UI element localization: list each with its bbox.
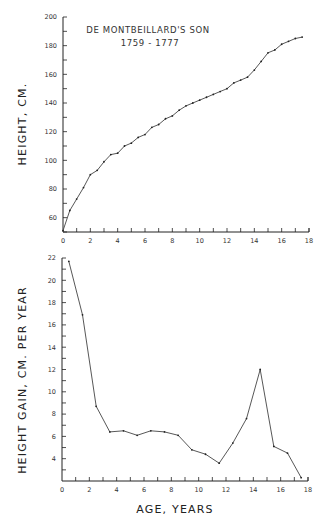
x-tick-label: 6 (142, 486, 146, 494)
data-point (253, 69, 255, 71)
x-tick-label: 2 (88, 237, 92, 245)
x-tick-label: 14 (250, 237, 258, 245)
data-point (219, 91, 221, 93)
y-tick-label: 6 (52, 433, 56, 441)
data-point (260, 61, 262, 63)
data-point (82, 314, 84, 316)
x-tick-label: 10 (195, 486, 203, 494)
x-axis-label: AGE, YEARS (136, 503, 214, 516)
data-point (95, 405, 97, 407)
y-tick-label: 200 (45, 13, 57, 21)
y-tick-label: 60 (49, 214, 57, 222)
data-point (89, 174, 91, 176)
y-tick-label: 160 (45, 71, 57, 79)
data-series (69, 261, 301, 477)
y-tick-label: 18 (48, 299, 56, 307)
data-point (164, 431, 166, 433)
y-tick-label: 12 (48, 366, 56, 374)
data-point (68, 260, 70, 262)
y-tick-label: 80 (49, 185, 57, 193)
x-tick-label: 4 (116, 237, 120, 245)
data-point (124, 145, 126, 147)
data-point (206, 96, 208, 98)
y-tick-label: 22 (48, 254, 56, 262)
height-chart-line (62, 36, 303, 231)
y-tick-label: 14 (48, 344, 56, 352)
x-tick-label: 18 (305, 237, 313, 245)
x-tick-label: 16 (277, 486, 285, 494)
chart-subtitle: 1759 - 1777 (121, 38, 179, 48)
data-point (62, 230, 64, 232)
data-point (109, 431, 111, 433)
y-tick-label: 120 (45, 128, 57, 136)
x-tick-label: 18 (304, 486, 312, 494)
height-chart-ticks: 0246810121416186080100120140160180200 (45, 13, 314, 245)
height-chart-axes (63, 17, 309, 232)
data-point (158, 124, 160, 126)
height-gain-chart-ticks: 02468101214161846810121416182022 (48, 254, 312, 494)
data-point (137, 137, 139, 139)
y-tick-label: 20 (48, 277, 56, 285)
height-y-axis-label: HEIGHT, CM. (16, 83, 29, 166)
data-point (123, 430, 125, 432)
data-point (110, 154, 112, 156)
data-point (83, 187, 85, 189)
data-point (294, 38, 296, 40)
data-point (218, 462, 220, 464)
y-tick-label: 8 (52, 410, 56, 418)
data-point (288, 40, 290, 42)
data-point (178, 109, 180, 111)
data-point (150, 430, 152, 432)
height-gain-y-axis-label: HEIGHT GAIN, CM. PER YEAR (16, 286, 29, 474)
x-tick-label: 12 (223, 237, 231, 245)
x-tick-label: 0 (61, 237, 65, 245)
growth-chart: 0246810121416186080100120140160180200 DE… (0, 0, 330, 528)
x-tick-label: 4 (115, 486, 119, 494)
data-point (205, 453, 207, 455)
height-chart: 0246810121416186080100120140160180200 DE… (16, 13, 313, 245)
data-point (287, 452, 289, 454)
x-tick-label: 0 (60, 486, 64, 494)
data-point (247, 76, 249, 78)
y-tick-label: 100 (45, 157, 57, 165)
height-gain-chart-axes (62, 258, 308, 481)
data-point (144, 134, 146, 136)
data-point (171, 115, 173, 117)
data-point (185, 105, 187, 107)
data-point (226, 88, 228, 90)
x-tick-label: 6 (143, 237, 147, 245)
data-point (240, 79, 242, 81)
x-tick-label: 8 (170, 237, 174, 245)
y-tick-label: 4 (52, 455, 56, 463)
data-point (192, 102, 194, 104)
data-point (274, 49, 276, 51)
y-tick-label: 180 (45, 42, 57, 50)
x-tick-label: 2 (87, 486, 91, 494)
data-point (96, 169, 98, 171)
data-point (199, 99, 201, 101)
data-series (63, 37, 302, 231)
data-point (69, 210, 71, 212)
data-point (103, 161, 105, 163)
data-point (151, 126, 153, 128)
x-tick-label: 8 (169, 486, 173, 494)
y-tick-label: 10 (48, 388, 56, 396)
data-point (300, 477, 302, 479)
data-point (191, 449, 193, 451)
data-point (259, 369, 261, 371)
data-point (246, 418, 248, 420)
data-point (165, 118, 167, 120)
height-gain-chart: 02468101214161846810121416182022 HEIGHT … (16, 254, 312, 516)
data-point (177, 434, 179, 436)
data-point (281, 43, 283, 45)
data-point (233, 82, 235, 84)
data-point (136, 434, 138, 436)
data-point (267, 52, 269, 54)
y-tick-label: 140 (45, 99, 57, 107)
x-tick-label: 16 (278, 237, 286, 245)
data-point (212, 94, 214, 96)
data-point (273, 446, 275, 448)
x-tick-label: 10 (196, 237, 204, 245)
data-point (130, 142, 132, 144)
x-tick-label: 12 (222, 486, 230, 494)
